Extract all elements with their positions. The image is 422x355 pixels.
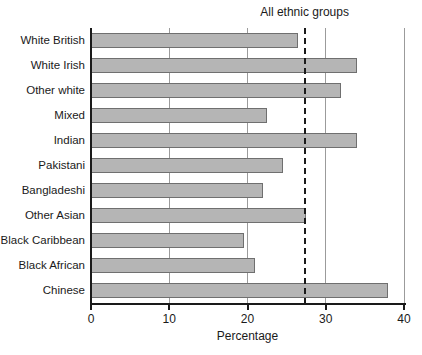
category-label-other-asian: Other Asian: [0, 203, 85, 228]
x-tick-30: [325, 305, 327, 310]
x-tick-label-30: 30: [311, 312, 341, 326]
bar-pakistani: [91, 158, 283, 173]
category-label-black-caribbean: Black Caribbean: [0, 228, 85, 253]
category-label-pakistani: Pakistani: [0, 153, 85, 178]
gridline-x-40: [404, 28, 405, 303]
x-tick-label-10: 10: [154, 312, 184, 326]
category-label-mixed: Mixed: [0, 103, 85, 128]
bar-mixed: [91, 108, 267, 123]
bar-other-asian: [91, 208, 306, 223]
bar-chart-figure: All ethnic groups White BritishWhite Iri…: [0, 0, 422, 355]
bar-black-caribbean: [91, 233, 244, 248]
category-label-indian: Indian: [0, 128, 85, 153]
bar-indian: [91, 133, 357, 148]
bar-black-african: [91, 258, 255, 273]
category-label-bangladeshi: Bangladeshi: [0, 178, 85, 203]
x-tick-40: [403, 305, 405, 310]
category-label-white-british: White British: [0, 28, 85, 53]
category-axis-labels: White BritishWhite IrishOther whiteMixed…: [0, 28, 85, 303]
bar-white-irish: [91, 58, 357, 73]
x-axis-title: Percentage: [91, 329, 404, 343]
x-tick-label-40: 40: [389, 312, 419, 326]
category-label-black-african: Black African: [0, 253, 85, 278]
x-tick-0: [90, 305, 92, 310]
x-tick-label-20: 20: [233, 312, 263, 326]
reference-line-label: All ethnic groups: [260, 5, 349, 19]
x-tick-20: [247, 305, 249, 310]
y-axis-line: [90, 28, 92, 305]
x-tick-10: [168, 305, 170, 310]
category-label-chinese: Chinese: [0, 278, 85, 303]
all-ethnic-groups-reference-line: [304, 28, 306, 303]
bar-bangladeshi: [91, 183, 263, 198]
category-label-other-white: Other white: [0, 78, 85, 103]
category-label-white-irish: White Irish: [0, 53, 85, 78]
bar-white-british: [91, 33, 298, 48]
x-tick-label-0: 0: [76, 312, 106, 326]
bar-chinese: [91, 283, 388, 298]
plot-area: [91, 28, 404, 303]
